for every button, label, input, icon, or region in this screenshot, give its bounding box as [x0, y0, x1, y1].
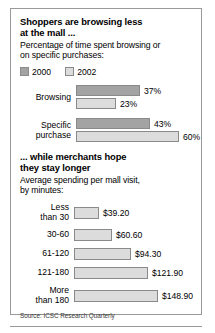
chart-two-row: 30-60 $60.60: [20, 229, 193, 241]
chart-two-plot: Less than 30 $39.20 30-60 $60.60 61-120 …: [20, 203, 193, 305]
bar-specific-2002: [76, 131, 179, 142]
chart-one-group-specific-purchase: Specific purchase 43% 60%: [20, 118, 193, 142]
chart-two-category-label: 121-180: [20, 268, 74, 278]
source-note: Source: ICSC Research Quarterly: [20, 312, 193, 319]
chart-two-row: 121-180 $121.90: [20, 267, 193, 279]
bar-row-2002: 23%: [76, 98, 193, 109]
bar-more-than-180: [74, 290, 158, 302]
category-label-line1: 61-120: [20, 249, 69, 259]
legend-swatch-2002: [65, 67, 74, 76]
category-label-line1: Browsing: [20, 92, 71, 102]
section-two-subhead-line1: Average spending per mall visit,: [20, 175, 193, 186]
bar-30-60: [74, 229, 112, 241]
chart-two-row: 61-120 $94.30: [20, 248, 193, 260]
bar-61-120: [74, 248, 131, 260]
section-two-subhead: Average spending per mall visit, by minu…: [20, 175, 193, 196]
section-one-subhead-line1: Percentage of time spent browsing or: [20, 40, 193, 51]
chart-one-legend: 2000 2002: [20, 66, 193, 77]
category-label-line2: purchase: [20, 130, 71, 140]
section-one-headline-line2: at the mall ...: [20, 27, 193, 38]
legend-swatch-2000: [20, 67, 29, 76]
chart-two-row: Less than 30 $39.20: [20, 203, 193, 222]
chart-two-category-label: 61-120: [20, 249, 74, 259]
bar-value-specific-2002: 60%: [183, 132, 200, 142]
section-two: ... while merchants hope they stay longe…: [20, 151, 193, 305]
section-one-subhead: Percentage of time spent browsing or on …: [20, 40, 193, 61]
bar-less-than-30: [74, 207, 99, 219]
section-one-headline: Shoppers are browsing less at the mall .…: [20, 16, 193, 39]
category-label-line1: 121-180: [20, 268, 69, 278]
chart-two-category-label: 30-60: [20, 230, 74, 240]
section-one-subhead-line2: on specific purchases:: [20, 50, 193, 61]
chart-one-category-label: Specific purchase: [20, 120, 76, 140]
chart-one-plot: Browsing 37% 23% Specific purchase: [20, 85, 193, 142]
chart-one-category-label: Browsing: [20, 92, 76, 102]
bar-value-browsing-2002: 23%: [120, 99, 137, 109]
chart-two-category-label: More than 180: [20, 286, 74, 305]
chart-two-row: More than 180 $148.90: [20, 286, 193, 305]
chart-one-group-browsing: Browsing 37% 23%: [20, 85, 193, 109]
category-label-line2: than 30: [20, 213, 69, 223]
section-two-subhead-line2: by minutes:: [20, 185, 193, 196]
bar-value-61-120: $94.30: [135, 249, 161, 259]
bar-value-less-than-30: $39.20: [103, 208, 129, 218]
section-two-headline-line2: they stay longer: [20, 162, 193, 173]
bar-row-2000: 37%: [76, 85, 193, 96]
footer-rule: [10, 326, 202, 327]
legend-label-2002: 2002: [77, 67, 96, 77]
bar-value-more-than-180: $148.90: [162, 291, 193, 301]
chart-one-bar-pair: 37% 23%: [76, 85, 193, 109]
legend-label-2000: 2000: [32, 67, 51, 77]
bar-value-121-180: $121.90: [152, 268, 183, 278]
chart-two-category-label: Less than 30: [20, 203, 74, 222]
category-label-line1: 30-60: [20, 230, 69, 240]
bar-specific-2000: [76, 118, 150, 129]
section-one: Shoppers are browsing less at the mall .…: [20, 16, 193, 142]
section-two-headline-line1: ... while merchants hope: [20, 151, 193, 162]
section-one-headline-line1: Shoppers are browsing less: [20, 16, 193, 27]
bar-121-180: [74, 267, 148, 279]
section-two-headline: ... while merchants hope they stay longe…: [20, 151, 193, 174]
chart-one-bar-pair: 43% 60%: [76, 118, 200, 142]
bar-row-2002: 60%: [76, 131, 200, 142]
bar-value-specific-2000: 43%: [154, 119, 171, 129]
bar-browsing-2002: [76, 98, 116, 109]
bar-value-30-60: $60.60: [116, 230, 142, 240]
bar-row-2000: 43%: [76, 118, 200, 129]
infographic-panel: Shoppers are browsing less at the mall .…: [10, 8, 202, 315]
category-label-line2: than 180: [20, 296, 69, 306]
bar-value-browsing-2000: 37%: [144, 86, 161, 96]
category-label-line1: Specific: [20, 120, 71, 130]
bar-browsing-2000: [76, 85, 140, 96]
